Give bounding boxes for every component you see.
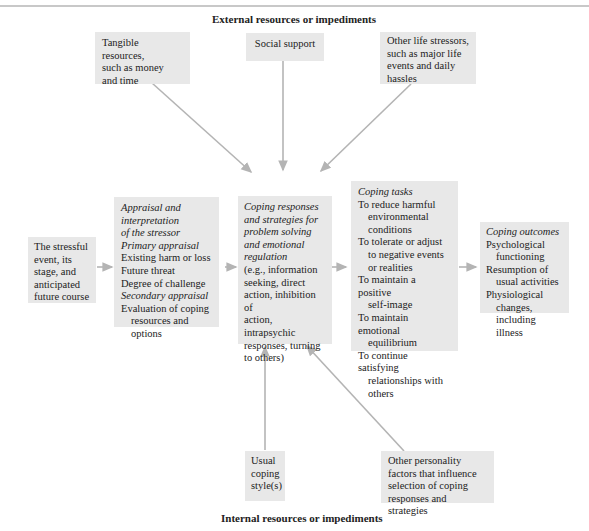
arrow-stressors-to-coping	[321, 84, 411, 171]
other-life-stressors-box: Other life stressors, such as major life…	[380, 32, 476, 84]
stressful-event-box: The stressful event, its stage, and anti…	[28, 237, 96, 303]
coping-responses-box: Coping responses and strategies for prob…	[238, 196, 332, 344]
coping-outcomes-box: Coping outcomes Psychological functionin…	[480, 222, 569, 313]
appraisal-box: Appraisal and interpretation of the stre…	[114, 197, 219, 327]
coping-tasks-box: Coping tasks To reduce harmful environme…	[351, 181, 458, 351]
personality-factors-box: Other personality factors that influence…	[381, 451, 494, 503]
arrow-tangible-to-coping	[152, 83, 251, 172]
tangible-resources-box: Tangible resources, such as money and ti…	[95, 32, 190, 84]
internal-resources-heading: Internal resources or impediments	[221, 512, 383, 524]
usual-coping-style-box: Usual coping style(s)	[245, 451, 285, 501]
social-support-box: Social support	[246, 33, 324, 61]
